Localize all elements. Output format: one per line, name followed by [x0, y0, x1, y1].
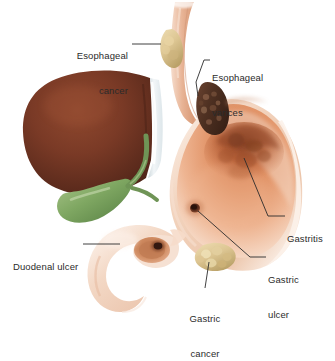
duodenal-ulcer-lesion: [151, 241, 165, 252]
gastric-ulcer-label-line2: ulcer: [268, 309, 299, 321]
gastric-cancer-label-line2: cancer: [165, 348, 245, 360]
gastric-cancer-label-line1: Gastric: [165, 313, 245, 325]
duodenal-ulcer-label: Duodenal ulcer: [13, 238, 78, 284]
esophageal-varices-label-line2: varices: [212, 107, 263, 119]
gastric-ulcer-label: Gastric ulcer: [268, 251, 299, 332]
gastritis-label-line1: Gastritis: [287, 233, 323, 245]
esophageal-varices-label-line1: Esophageal: [212, 72, 263, 84]
esophageal-cancer-label-line1: Esophageal: [0, 50, 128, 62]
gastric-cancer-lesion: [195, 243, 236, 271]
gastric-cancer-label: Gastric cancer: [165, 290, 245, 361]
esophageal-varices-label: Esophageal varices: [212, 49, 263, 130]
gastric-ulcer-label-line1: Gastric: [268, 274, 299, 286]
gastritis-label: Gastritis: [287, 210, 323, 256]
duodenal-ulcer-label-line1: Duodenal ulcer: [13, 261, 78, 273]
esophageal-cancer-label: Esophageal cancer: [0, 27, 128, 108]
esophageal-cancer-label-line2: cancer: [0, 85, 128, 97]
